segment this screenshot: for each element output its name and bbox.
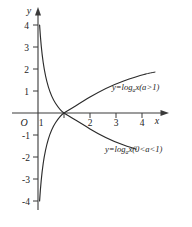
x-tick-label-2: 2 bbox=[88, 118, 93, 128]
y-axis-arrow-icon bbox=[35, 7, 41, 16]
y-tick-label-neg4: -4 bbox=[22, 197, 30, 207]
lower-label-prefix: y=log bbox=[104, 144, 126, 154]
y-tick-label-neg3: -3 bbox=[22, 175, 30, 185]
y-tick-label-3: 3 bbox=[24, 43, 29, 53]
origin-label: O bbox=[20, 117, 27, 128]
curve-label-a-between-0-and-1: y=logax(0<a<1) bbox=[104, 144, 163, 155]
graph-canvas: 4 3 2 1 -1 -2 -3 -4 1 2 3 4 O y x y=loga… bbox=[0, 0, 192, 227]
x-tick-label-1: 1 bbox=[39, 118, 44, 128]
y-tick-label-2: 2 bbox=[24, 65, 29, 75]
x-tick-label-3: 3 bbox=[114, 118, 119, 128]
x-axis-ticks bbox=[64, 113, 142, 118]
log-function-graph-figure: 4 3 2 1 -1 -2 -3 -4 1 2 3 4 O y x y=loga… bbox=[0, 0, 192, 227]
y-tick-label-neg1: -1 bbox=[22, 131, 30, 141]
y-tick-label-neg2: -2 bbox=[22, 153, 30, 163]
y-tick-label-4: 4 bbox=[24, 21, 29, 31]
y-tick-label-1: 1 bbox=[24, 87, 29, 97]
y-axis-label: y bbox=[26, 5, 32, 16]
x-axis-arrow-icon bbox=[161, 110, 170, 116]
x-tick-label-4: 4 bbox=[140, 118, 145, 128]
upper-label-leader-line bbox=[145, 72, 155, 74]
lower-label-suffix: x(0<a<1) bbox=[127, 144, 162, 154]
curve-label-a-greater-than-1: y=logax(a>1) bbox=[111, 82, 159, 93]
upper-label-suffix: x(a>1) bbox=[134, 82, 159, 92]
x-axis-label: x bbox=[154, 115, 160, 126]
curve-log-a-greater-than-1 bbox=[40, 74, 145, 201]
upper-label-prefix: y=log bbox=[111, 82, 133, 92]
